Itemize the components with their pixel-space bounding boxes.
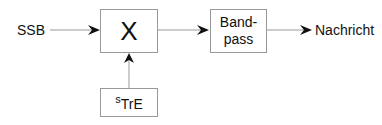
multiply-icon: X [120, 16, 137, 47]
input-label: SSB [17, 22, 45, 38]
output-label: Nachricht [315, 22, 374, 38]
carrier-label-main: TrE [121, 96, 143, 112]
bandpass-label-line2: pass [224, 31, 254, 48]
block-diagram: SSB X sTrE Band- pass Nachricht [0, 0, 382, 125]
bandpass-label-line1: Band- [220, 14, 257, 31]
carrier-source-block: sTrE [100, 88, 158, 117]
carrier-label: sTrE [115, 93, 143, 112]
connector-lines [0, 0, 382, 125]
bandpass-block: Band- pass [210, 9, 267, 53]
mixer-block: X [100, 9, 158, 53]
